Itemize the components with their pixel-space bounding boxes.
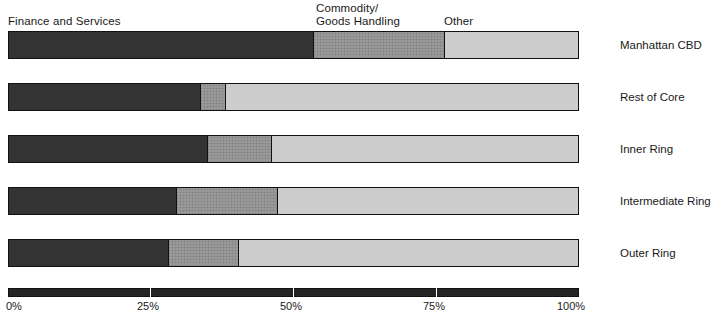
bar-row [8, 83, 579, 111]
segment-other [226, 84, 578, 110]
segment-other [272, 136, 578, 162]
series-label-rest-of-core: Rest of Core [620, 91, 685, 103]
legend-label-commodity-goods-handling: Commodity/ Goods Handling [316, 2, 400, 27]
series-label-inner-ring: Inner Ring [620, 143, 673, 155]
segment-other [445, 32, 578, 58]
x-axis-label-50: 50% [280, 300, 302, 312]
legend-label-finance-and-services: Finance and Services [8, 15, 121, 28]
series-label-outer-ring: Outer Ring [620, 247, 676, 259]
segment-finance-and-services [9, 32, 314, 58]
stacked-bar-chart: Finance and Services Commodity/ Goods Ha… [0, 0, 715, 321]
stacked-bar-rest-of-core [8, 83, 579, 111]
segment-commodity-goods-handling [208, 136, 272, 162]
bar-row [8, 31, 579, 59]
stacked-bar-outer-ring [8, 239, 579, 267]
segment-commodity-goods-handling [314, 32, 445, 58]
segment-commodity-goods-handling [169, 240, 239, 266]
x-axis-label-25: 25% [137, 300, 159, 312]
series-label-manhattan-cbd: Manhattan CBD [620, 39, 702, 51]
segment-commodity-goods-handling [201, 84, 226, 110]
segment-finance-and-services [9, 240, 169, 266]
x-axis-label-75: 75% [423, 300, 445, 312]
stacked-bar-intermediate-ring [8, 187, 579, 215]
legend-label-other: Other [444, 15, 473, 28]
series-label-intermediate-ring: Intermediate Ring [620, 195, 711, 207]
segment-commodity-goods-handling [177, 188, 278, 214]
bar-row [8, 187, 579, 215]
segment-finance-and-services [9, 136, 208, 162]
x-axis-label-100: 100% [557, 300, 585, 312]
stacked-bar-manhattan-cbd [8, 31, 579, 59]
bar-row [8, 135, 579, 163]
segment-finance-and-services [9, 188, 177, 214]
bar-row [8, 239, 579, 267]
segment-other [239, 240, 578, 266]
segment-other [278, 188, 578, 214]
segment-finance-and-services [9, 84, 201, 110]
x-axis-label-0: 0% [6, 300, 22, 312]
stacked-bar-inner-ring [8, 135, 579, 163]
